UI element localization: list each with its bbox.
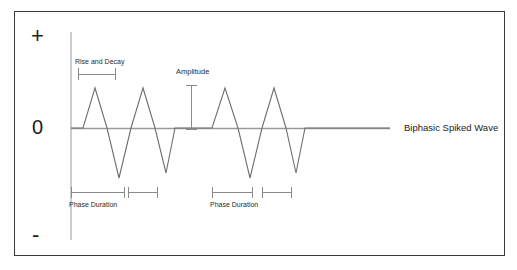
diagram-canvas: [0, 0, 517, 270]
axis-tick-negative: -: [32, 224, 39, 246]
phase-duration-bracket-1a: [71, 187, 125, 198]
waveform-first-burst: [71, 88, 191, 178]
figure-root: + 0 - Rise and Decay Amplitude Phase Dur…: [0, 0, 517, 270]
waveform-second-burst: [191, 88, 390, 178]
axis-tick-positive: +: [31, 25, 44, 47]
axis-tick-zero: 0: [32, 117, 43, 137]
phase-duration-bracket-2a: [212, 187, 253, 198]
rise-and-decay-label: Rise and Decay: [75, 58, 124, 66]
phase-duration-label-second: Phase Duration: [210, 201, 258, 209]
amplitude-label: Amplitude: [176, 68, 209, 76]
rise-and-decay-bracket: [78, 68, 116, 80]
amplitude-marker: [186, 85, 197, 130]
phase-duration-bracket-2b: [262, 187, 292, 198]
phase-duration-bracket-1b: [128, 187, 158, 198]
waveform-name-label: Biphasic Spiked Wave: [404, 122, 498, 133]
phase-duration-label-first: Phase Duration: [69, 201, 117, 209]
